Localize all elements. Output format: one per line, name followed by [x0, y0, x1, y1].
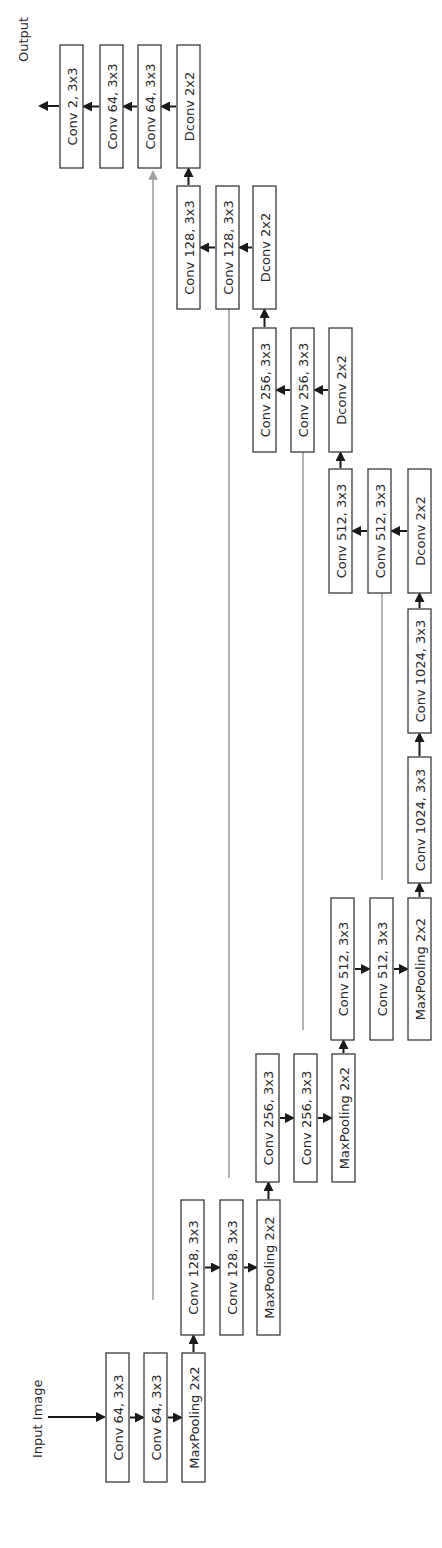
layer-box-enc3-conv1: Conv 256, 3x3 [256, 1054, 279, 1182]
layer-box-dec4-conv1: Conv 512, 3x3 [329, 469, 352, 593]
layer-box-dec3-conv2: Conv 256, 3x3 [291, 328, 314, 452]
layer-box-dec4-conv2: Conv 512, 3x3 [368, 469, 391, 593]
layer-label: Conv 64, 3x3 [149, 1374, 164, 1460]
layer-box-dec3-dconv: Dconv 2x2 [329, 328, 352, 452]
layer-box-enc3-conv2: Conv 256, 3x3 [294, 1054, 317, 1182]
layer-label: Conv 512, 3x3 [334, 484, 349, 578]
layer-box-dec2-conv1: Conv 128, 3x3 [177, 186, 200, 309]
layer-box-dec2-conv2: Conv 128, 3x3 [216, 186, 239, 309]
layer-box-dec4-dconv: Dconv 2x2 [408, 469, 431, 593]
layer-label: Conv 256, 3x3 [299, 1071, 314, 1165]
layer-box-enc2-conv1: Conv 128, 3x3 [181, 1200, 204, 1335]
layer-label: MaxPooling 2x2 [337, 1067, 352, 1169]
layer-label: MaxPooling 2x2 [262, 1216, 277, 1318]
layer-label: Dconv 2x2 [413, 496, 428, 565]
layer-box-enc1-conv1: Conv 64, 3x3 [106, 1353, 129, 1482]
layer-box-enc4-pool: MaxPooling 2x2 [408, 898, 431, 1040]
layer-label: Conv 64, 3x3 [105, 63, 120, 149]
layer-box-dec2-dconv: Dconv 2x2 [253, 186, 276, 309]
output-label: Output [16, 17, 31, 62]
layer-box-dec3-conv1: Conv 256, 3x3 [253, 328, 276, 452]
layer-label: Conv 512, 3x3 [336, 922, 351, 1016]
layer-label: Conv 128, 3x3 [225, 1220, 240, 1314]
layer-box-bott-conv1: Conv 1024, 3x3 [408, 757, 431, 883]
layer-box-enc1-pool: MaxPooling 2x2 [182, 1353, 205, 1482]
layer-label: Dconv 2x2 [334, 355, 349, 424]
layer-label: Conv 256, 3x3 [261, 1071, 276, 1165]
layer-label: Conv 128, 3x3 [186, 1220, 201, 1314]
layer-box-enc3-pool: MaxPooling 2x2 [332, 1054, 355, 1182]
io-labels: Input Image Output [16, 17, 45, 1458]
layer-label: MaxPooling 2x2 [187, 1366, 202, 1468]
layer-box-dec1-conv2: Conv 64, 3x3 [138, 45, 161, 168]
layer-label: Conv 256, 3x3 [296, 343, 311, 437]
layer-box-enc2-pool: MaxPooling 2x2 [257, 1200, 280, 1335]
layer-box-out-conv: Conv 2, 3x3 [60, 45, 83, 168]
layer-label: Conv 512, 3x3 [375, 922, 390, 1016]
layer-label: Conv 1024, 3x3 [413, 769, 428, 872]
layer-boxes: Conv 64, 3x3Conv 64, 3x3MaxPooling 2x2Co… [60, 45, 431, 1482]
layer-box-enc4-conv2: Conv 512, 3x3 [370, 898, 393, 1040]
layer-box-dec1-conv1: Conv 64, 3x3 [100, 45, 123, 168]
layer-box-enc4-conv1: Conv 512, 3x3 [331, 898, 354, 1040]
layer-box-bott-conv2: Conv 1024, 3x3 [408, 609, 431, 733]
layer-label: Conv 512, 3x3 [373, 484, 388, 578]
layer-box-enc2-conv2: Conv 128, 3x3 [220, 1200, 243, 1335]
layer-label: Conv 256, 3x3 [258, 343, 273, 437]
unet-diagram: Conv 64, 3x3Conv 64, 3x3MaxPooling 2x2Co… [0, 0, 442, 1548]
layer-label: Conv 64, 3x3 [111, 1374, 126, 1460]
input-label: Input Image [30, 1379, 45, 1458]
layer-box-dec1-dconv: Dconv 2x2 [177, 45, 200, 168]
layer-label: Conv 128, 3x3 [221, 200, 236, 294]
layer-label: Dconv 2x2 [182, 72, 197, 141]
layer-label: Conv 64, 3x3 [143, 63, 158, 149]
layer-label: Conv 128, 3x3 [182, 200, 197, 294]
layer-label: Dconv 2x2 [258, 213, 273, 282]
diagram-canvas: Conv 64, 3x3Conv 64, 3x3MaxPooling 2x2Co… [0, 0, 442, 1548]
layer-label: MaxPooling 2x2 [413, 918, 428, 1020]
layer-box-enc1-conv2: Conv 64, 3x3 [144, 1353, 167, 1482]
layer-label: Conv 1024, 3x3 [413, 620, 428, 723]
layer-label: Conv 2, 3x3 [65, 68, 80, 146]
